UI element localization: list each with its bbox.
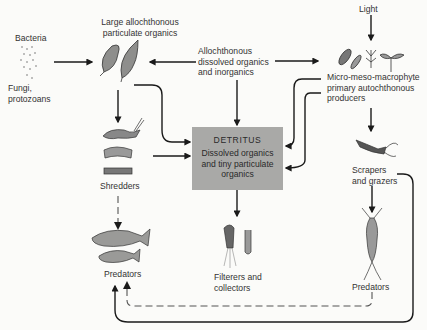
stonefly-predator-icon [362,208,382,280]
detritus-box: DETRITUS Dissolved organics and tiny par… [192,127,283,190]
predators-right-label: Predators [352,282,389,293]
bacteria-label: Bacteria [15,33,47,44]
shredders-icon [103,118,144,174]
filterers-icon [224,225,251,268]
arrow-organics-to-detritus [134,85,190,142]
bacteria-dots-icon [20,46,36,78]
fish-predators-icon [92,229,150,263]
fungi-label: Fungi, protozoans [8,83,51,104]
producers-label: Micro-meso-macrophyte primary autochthon… [327,72,420,104]
allochthonous-dissolved-label: Allochthonous dissolved organics and ino… [198,46,269,78]
filterers-label: Filterers and collectors [214,272,262,293]
scrapers-label: Scrapers and grazers [352,165,397,186]
large-organics-label: Large allochthonous particulate organics [85,17,195,38]
arrow-producers-to-detritus-2 [286,93,321,168]
scrapers-icon [356,140,398,157]
predators-left-label: Predators [104,269,141,280]
producers-icon [337,47,404,72]
arrow-producers-to-detritus-1 [286,79,321,146]
detritus-description: Dissolved organics and tiny particulate … [192,148,283,180]
leaves-icon [100,40,138,82]
shredders-label: Shredders [100,181,140,192]
light-label: Light [359,4,378,15]
detritus-title: DETRITUS [192,135,283,145]
